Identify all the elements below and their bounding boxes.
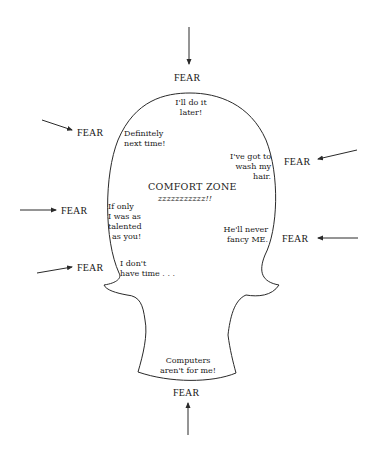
excuse-computers: Computers aren't for me! [152,356,224,376]
excuse-fancy-me: He'll never fancy ME. [214,225,268,245]
excuse-no-time: I don't have time . . . [120,259,175,279]
excuse-wash-hair: I've got to wash my hair. [219,152,271,182]
fear-label-bottom: FEAR [173,388,199,398]
fear-label-upper-left: FEAR [77,128,103,138]
comfort-zone-zzz: zzzzzzzzzzz!! [158,195,212,203]
arrow-lower-left [37,267,72,273]
fear-label-top: FEAR [174,73,200,83]
fear-label-upper-right: FEAR [284,157,310,167]
fear-label-mid-left: FEAR [61,206,87,216]
arrow-upper-right [318,150,357,159]
fear-label-lower-left: FEAR [77,263,103,273]
comfort-zone-title: COMFORT ZONE [148,182,237,192]
excuse-do-it-later: I'll do it later! [170,98,212,118]
arrow-upper-left [42,120,72,130]
excuse-next-time: Definitely next time! [124,129,165,149]
comfort-zone-diagram: FEAR FEAR FEAR FEAR FEAR FEAR FEAR COMFO… [0,0,379,459]
fear-label-mid-right: FEAR [282,234,308,244]
excuse-talented: If only I was as talented as you! [108,202,142,242]
